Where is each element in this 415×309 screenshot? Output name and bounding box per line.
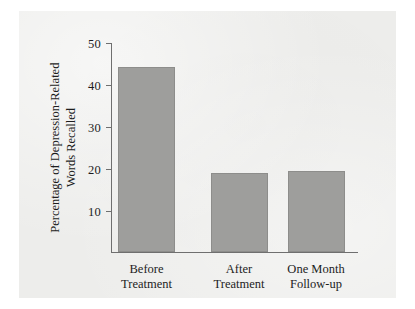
y-tick-30: 30 (106, 127, 111, 128)
plot-area: 50 40 30 20 10 Before Treatment After Tr… (111, 43, 358, 253)
y-tick-label-10: 10 (88, 204, 101, 219)
y-axis-title-line-1: Percentage of Depression-Related (48, 63, 64, 233)
y-tick-20: 20 (106, 169, 111, 170)
x-category-label-1-line-2: Treatment (214, 277, 265, 292)
x-category-label-1-line-1: After (214, 262, 265, 277)
x-category-label-2-line-1: One Month (287, 262, 344, 277)
y-tick-label-20: 20 (88, 162, 101, 177)
x-category-label-1: After Treatment (214, 262, 265, 293)
bar-one-month-follow-up[interactable] (288, 171, 345, 251)
bar-before-treatment[interactable] (118, 67, 175, 252)
y-axis-line (111, 43, 112, 253)
x-category-label-0: Before Treatment (121, 262, 172, 293)
x-category-label-2-line-2: Follow-up (287, 277, 344, 292)
figure: Percentage of Depression-Related Words R… (0, 0, 415, 309)
y-tick-10: 10 (106, 211, 111, 212)
y-tick-50: 50 (106, 43, 111, 44)
x-category-label-2: One Month Follow-up (287, 262, 344, 293)
y-axis-title-line-2: Words Recalled (64, 63, 80, 233)
y-axis-title: Percentage of Depression-Related Words R… (47, 43, 81, 253)
x-axis-line (111, 252, 358, 253)
y-tick-40: 40 (106, 85, 111, 86)
y-tick-label-30: 30 (88, 120, 101, 135)
y-tick-label-50: 50 (88, 36, 101, 51)
x-category-label-0-line-1: Before (121, 262, 172, 277)
bar-after-treatment[interactable] (211, 173, 268, 252)
x-category-label-0-line-2: Treatment (121, 277, 172, 292)
y-tick-label-40: 40 (88, 78, 101, 93)
